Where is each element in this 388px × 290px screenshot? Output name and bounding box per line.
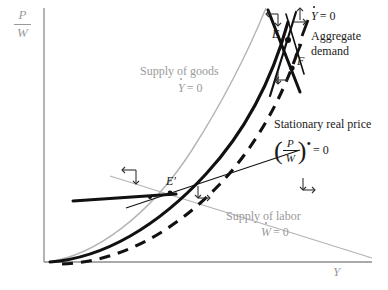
stationary-real-price-formula: ( P W ) • = 0 <box>274 137 329 165</box>
dot-F <box>289 65 294 70</box>
arrow-cross-upper-right <box>294 8 306 25</box>
stationary-formula-tail: = 0 <box>313 144 329 157</box>
supply-of-labor-equation: W= 0 <box>261 226 289 239</box>
aggregate-demand-ydot: Y <box>311 10 318 23</box>
supply-of-goods-ydot: Y <box>178 82 185 95</box>
right-paren: ) <box>298 140 307 162</box>
point-label-E: E <box>272 28 279 41</box>
y-axis-label: P W <box>14 8 31 40</box>
dot-E <box>285 37 291 43</box>
aggregate-demand-label-line1: Aggregate <box>311 30 361 43</box>
supply-of-goods-eq-tail: = 0 <box>187 81 203 95</box>
arrow-cross-lower-left <box>195 186 210 201</box>
stationary-formula-numerator: P <box>283 137 298 151</box>
supply-of-labor-label: Supply of labor <box>226 210 301 223</box>
y-axis-label-denominator: W <box>14 25 31 41</box>
supply-of-goods-curve <box>47 8 266 262</box>
left-paren: ( <box>274 140 283 162</box>
aggregate-demand-eq-tail: = 0 <box>320 9 336 23</box>
point-label-E-prime: E′ <box>166 175 176 188</box>
supply-of-labor-eq-tail: = 0 <box>273 225 289 239</box>
horizontal-locus-line <box>73 194 176 201</box>
dot-intersection-lower <box>148 195 152 199</box>
arrow-cross-mid-left <box>122 167 139 184</box>
phase-diagram-figure: P W Y Supply of goods Y= 0 Supply of lab… <box>0 0 388 290</box>
dot-E-prime <box>168 191 173 196</box>
aggregate-demand-label-line2: demand <box>311 45 349 58</box>
y-axis-label-numerator: P <box>14 8 31 25</box>
stationary-formula-denominator: W <box>283 151 298 164</box>
aggregate-demand-equation: Y= 0 <box>311 10 335 23</box>
supply-of-labor-wdot: W <box>261 226 271 239</box>
stationary-real-price-label: Stationary real price <box>274 118 371 131</box>
point-label-prime-mark: ′ <box>173 174 176 188</box>
point-label-F: F <box>297 55 304 68</box>
supply-of-goods-equation: Y= 0 <box>178 82 202 95</box>
arrow-cross-mid-right <box>300 178 315 193</box>
supply-of-goods-label: Supply of goods <box>140 65 219 78</box>
stationary-formula-dot: • <box>307 137 312 152</box>
x-axis-label: Y <box>333 265 340 280</box>
